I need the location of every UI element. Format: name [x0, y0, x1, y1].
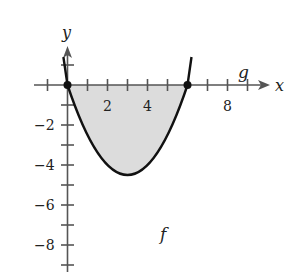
graph-svg: y x g f 2 4 8 −2 −4 −6 −8 — [0, 0, 288, 278]
y-axis-label: y — [61, 23, 72, 42]
y-tick-label: −2 — [34, 117, 55, 133]
y-tick-label: −4 — [34, 157, 55, 173]
x-axis-label: x — [275, 76, 284, 95]
x-tick-label: 8 — [223, 98, 232, 114]
x-tick-label: 2 — [103, 98, 112, 114]
curve-label-f: f — [158, 224, 169, 244]
intersection-point — [184, 81, 192, 89]
intersection-point — [64, 81, 72, 89]
y-tick-label: −6 — [34, 197, 55, 213]
y-tick-label: −8 — [34, 237, 55, 253]
curve-label-g: g — [238, 62, 249, 82]
graph-figure: y x g f 2 4 8 −2 −4 −6 −8 — [0, 0, 288, 278]
x-tick-label: 4 — [143, 98, 152, 114]
